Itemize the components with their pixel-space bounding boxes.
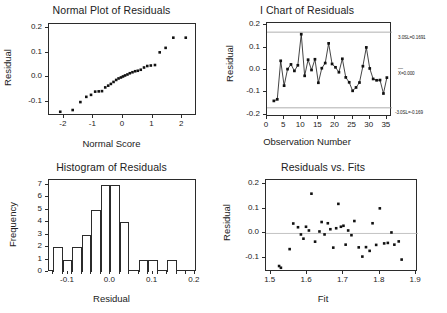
data-point [154, 64, 157, 67]
x-bin-tick-mark [176, 271, 177, 274]
data-point [361, 255, 364, 258]
x-tick-label: 1.7 [326, 275, 358, 284]
data-point [104, 86, 107, 89]
y-tick-label: -0.1 [10, 96, 42, 105]
i-chart-data-point [386, 76, 389, 79]
data-point [129, 72, 132, 75]
x-tick-label: -2 [47, 119, 79, 128]
data-point [110, 83, 113, 86]
data-point [94, 90, 97, 93]
data-point [150, 64, 153, 67]
x-tick-mark [342, 271, 343, 274]
y-tick-mark [45, 271, 48, 272]
x-bin-tick-mark [157, 271, 158, 274]
data-point [335, 227, 338, 230]
data-point [126, 73, 129, 76]
y-tick-mark [45, 76, 48, 77]
y-tick-label: 2 [10, 241, 42, 250]
y-tick-label: 0.0 [10, 71, 42, 80]
data-point [310, 192, 313, 195]
data-point [308, 229, 311, 232]
data-point [397, 240, 400, 243]
y-tick-label: 0.1 [228, 42, 260, 51]
y-tick-label: 6 [10, 191, 42, 200]
x-bin-tick-mark [128, 271, 129, 274]
i-chart-data-point [334, 66, 337, 69]
x-bin-tick-mark [52, 271, 53, 274]
x-bin-tick-mark [109, 271, 110, 274]
histogram-bars-layer [49, 180, 197, 272]
y-tick-mark [45, 196, 48, 197]
i-chart-lower-control-limit-label: -3.0SL=-0.169 [395, 110, 423, 115]
data-point [368, 250, 371, 253]
data-point [131, 71, 134, 74]
i-chart-data-point [375, 79, 378, 82]
x-bin-tick-mark [62, 271, 63, 274]
data-point [379, 207, 382, 210]
y-tick-mark [262, 208, 265, 209]
x-tick-label: -1 [76, 119, 108, 128]
x-tick-label: 0.1 [136, 275, 168, 284]
data-point [146, 65, 149, 68]
data-point [332, 246, 335, 249]
y-tick-mark [45, 101, 48, 102]
i-chart-data-point [355, 86, 358, 89]
i-chart-data-point [338, 71, 341, 74]
x-tick-label: 1.6 [290, 275, 322, 284]
data-point [337, 203, 340, 206]
data-point [71, 109, 74, 112]
i-chart-data-point [286, 68, 289, 71]
data-point [375, 244, 378, 247]
data-point [323, 233, 326, 236]
data-point [134, 70, 137, 73]
x-tick-mark [67, 271, 68, 274]
i-chart-data-point [341, 57, 344, 60]
x-tick-mark [283, 116, 284, 119]
i-chart-data-point [358, 81, 361, 84]
data-point [292, 222, 295, 225]
data-point [90, 94, 93, 97]
data-point [340, 225, 343, 228]
data-point [390, 231, 393, 234]
i-chart-data-point [348, 81, 351, 84]
y-tick-label: 0.2 [228, 19, 260, 28]
y-tick-mark [263, 69, 266, 70]
histogram-bar [82, 235, 92, 272]
y-tick-label: -0.1 [228, 86, 260, 95]
data-point [97, 90, 100, 93]
x-tick-mark [300, 116, 301, 119]
data-point [353, 220, 356, 223]
data-point [350, 234, 353, 237]
x-bin-tick-mark [147, 271, 148, 274]
data-point [158, 51, 161, 54]
y-tick-mark [263, 114, 266, 115]
i-chart-center-line-label: X=0.000 [398, 71, 415, 76]
y-tick-mark [45, 234, 48, 235]
x-tick-mark [266, 116, 267, 119]
normal-plot-points-layer [49, 24, 197, 116]
x-bin-tick-mark [185, 271, 186, 274]
residuals-vs-fits-title: Residuals vs. Fits [211, 161, 435, 173]
i-chart-data-point [279, 59, 282, 62]
x-tick-mark [194, 271, 195, 274]
data-point [357, 246, 360, 249]
i-chart-data-point [317, 81, 320, 84]
data-point [297, 226, 300, 229]
x-tick-mark [63, 115, 64, 118]
data-point [387, 242, 390, 245]
i-chart-data-point [379, 79, 382, 82]
i-chart-data-point [344, 76, 347, 79]
data-point [305, 225, 308, 228]
y-tick-mark [45, 52, 48, 53]
data-point [112, 81, 115, 84]
histogram-bar [101, 185, 111, 272]
residuals-vs-fits-plot-area [265, 179, 417, 271]
i-chart-data-point [351, 89, 354, 92]
x-bin-tick-mark [81, 271, 82, 274]
data-point [347, 229, 350, 232]
y-tick-mark [263, 24, 266, 25]
x-tick-label: 35 [370, 120, 402, 129]
x-tick-mark [386, 116, 387, 119]
i-chart-data-point [276, 98, 279, 101]
data-point [184, 36, 187, 39]
